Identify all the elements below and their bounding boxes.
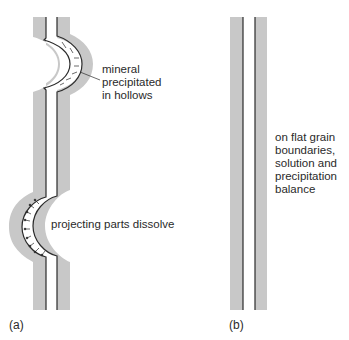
annotation-precipitated-line3: in hollows [102, 89, 153, 102]
annotation-flat-line2: boundaries, [275, 144, 335, 157]
annotation-precipitated-line1: mineral [102, 63, 140, 76]
right-grain-band-b [255, 17, 267, 310]
annotation-dissolve: projecting parts dissolve [51, 218, 174, 231]
left-grain-band-b [230, 17, 243, 310]
annotation-flat-line1: on flat grain [275, 131, 335, 144]
annotation-flat-line5: balance [275, 183, 315, 196]
annotation-precipitated-line2: precipitated [102, 76, 161, 89]
panel-label-b: (b) [229, 318, 244, 332]
panel-a-grain-boundary [9, 17, 100, 310]
panel-label-a: (a) [9, 318, 24, 332]
annotation-flat-line3: solution and [275, 157, 337, 170]
annotation-flat-line4: precipitation [275, 170, 337, 183]
panel-b-flat-boundary [230, 17, 267, 310]
